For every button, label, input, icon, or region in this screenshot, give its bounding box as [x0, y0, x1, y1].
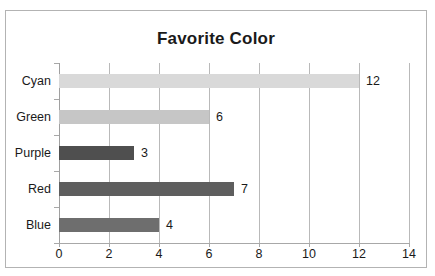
category-label-purple: Purple: [15, 146, 51, 160]
x-tick-label-12: 12: [352, 247, 366, 261]
bar-purple[interactable]: [59, 146, 134, 160]
bar-green[interactable]: [59, 110, 209, 124]
x-tick-label-14: 14: [402, 247, 416, 261]
bar-value-label-green: 6: [216, 110, 223, 124]
category-label-blue: Blue: [26, 218, 51, 232]
bar-cyan[interactable]: [59, 74, 359, 88]
y-tick-mark-4: [54, 207, 59, 208]
bar-value-label-blue: 4: [166, 218, 173, 232]
category-label-cyan: Cyan: [22, 74, 51, 88]
x-axis-line: [59, 243, 409, 244]
bar-value-label-purple: 3: [141, 146, 148, 160]
x-tick-label-4: 4: [156, 247, 163, 261]
y-tick-mark-3: [54, 171, 59, 172]
x-axis-tick-labels: 02468101214: [59, 247, 409, 267]
y-axis-category-labels: CyanGreenPurpleRedBlue: [6, 63, 59, 243]
y-tick-mark-2: [54, 135, 59, 136]
bar-row: 4: [59, 218, 409, 232]
bar-blue[interactable]: [59, 218, 159, 232]
bar-row: 7: [59, 182, 409, 196]
x-tick-label-8: 8: [256, 247, 263, 261]
x-tick-label-10: 10: [302, 247, 316, 261]
x-tick-label-2: 2: [106, 247, 113, 261]
bar-row: 3: [59, 146, 409, 160]
category-label-red: Red: [28, 182, 51, 196]
gridline-x-14: [409, 63, 410, 243]
x-tick-label-6: 6: [206, 247, 213, 261]
y-tick-mark-5: [54, 243, 59, 244]
bar-row: 6: [59, 110, 409, 124]
bar-value-label-red: 7: [241, 182, 248, 196]
category-label-green: Green: [16, 110, 51, 124]
plot-area: 126374: [59, 63, 409, 243]
chart-title: Favorite Color: [6, 29, 426, 49]
bar-red[interactable]: [59, 182, 234, 196]
bar-row: 12: [59, 74, 409, 88]
y-tick-mark-1: [54, 99, 59, 100]
y-tick-mark-0: [54, 63, 59, 64]
bar-value-label-cyan: 12: [366, 74, 380, 88]
chart-frame: Favorite Color CyanGreenPurpleRedBlue 12…: [5, 10, 427, 268]
x-tick-label-0: 0: [56, 247, 63, 261]
